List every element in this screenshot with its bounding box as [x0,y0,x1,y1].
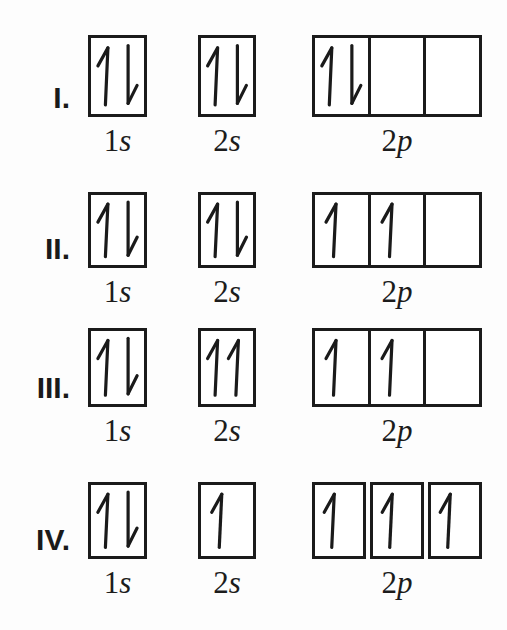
electron-arrows-canvas [315,195,368,265]
orbital-cell [201,331,253,404]
spin-down-arrow-icon [237,202,246,255]
spin-up-arrow-icon [98,204,108,257]
electron-arrows-canvas [91,331,144,404]
spin-down-arrow-icon [128,492,137,546]
orbital-cell [201,38,253,114]
electron-arrows-canvas [201,38,253,114]
electron-arrows-canvas [91,38,144,114]
orbital-cell [91,38,144,114]
spin-up-arrow-icon [212,494,222,547]
orbital-cell [368,331,424,404]
electron-arrows-canvas [431,485,479,556]
orbital-box-2s [198,192,256,268]
spin-up-arrow-icon [208,204,218,257]
orbital-label-1s: 1s [63,123,173,159]
orbital-label-number: 2 [382,565,398,600]
electron-arrows-canvas [315,331,368,404]
config-row-II: II.1s2s2p [0,192,507,320]
orbital-label-2p: 2p [342,274,452,310]
spin-down-arrow-icon [128,338,137,393]
orbital-label-2p: 2p [342,565,452,601]
row-numeral: I. [0,80,70,116]
orbital-box-2s [198,328,256,407]
spin-up-arrow-icon [440,494,450,547]
orbital-box-2p [312,328,482,407]
orbital-label-2p: 2p [342,413,452,449]
orbital-label-letter: p [397,565,413,600]
orbital-label-1s: 1s [63,413,173,449]
orbital-label-number: 2 [382,413,398,448]
orbital-label-2s: 2s [172,123,282,159]
orbital-box-1s [88,482,147,559]
orbital-label-letter: s [119,123,131,158]
orbital-cell [315,195,368,265]
orbital-label-number: 2 [213,274,229,309]
spin-down-arrow-icon [128,202,137,255]
orbital-label-letter: p [397,413,413,448]
orbital-label-number: 2 [382,274,398,309]
orbital-cell [315,331,368,404]
orbital-box-1s [88,192,147,268]
orbital-label-letter: s [229,413,241,448]
orbital-cell [91,485,144,556]
config-row-III: III.1s2s2p [0,328,507,459]
row-numeral: II. [0,231,70,267]
orbital-label-number: 1 [104,274,120,309]
spin-up-arrow-icon [382,494,392,547]
orbital-cell [91,331,144,404]
orbital-label-2p: 2p [342,123,452,159]
orbital-label-letter: s [119,274,131,309]
spin-down-arrow-icon [128,46,137,104]
spin-up-arrow-icon [382,340,392,395]
orbital-label-number: 1 [104,565,120,600]
spin-up-arrow-icon [382,204,392,257]
orbital-label-letter: s [119,565,131,600]
spin-up-arrow-icon [228,340,238,395]
orbital-label-number: 1 [104,123,120,158]
orbital-label-letter: s [229,565,241,600]
electron-arrows-canvas [91,195,144,265]
orbital-cell [368,38,424,114]
orbital-filling-diagrams-figure: I.1s2s2pII.1s2s2pIII.1s2s2pIV.1s2s2p [0,0,507,630]
orbital-box-1s [88,35,147,117]
spin-up-arrow-icon [326,340,336,395]
electron-arrows-canvas [201,485,253,556]
orbital-label-2s: 2s [172,413,282,449]
orbital-cell [312,482,366,559]
orbital-label-2s: 2s [172,565,282,601]
spin-up-arrow-icon [326,204,336,257]
config-row-I: I.1s2s2p [0,35,507,169]
orbital-cell [423,38,479,114]
orbital-box-1s [88,328,147,407]
orbital-label-letter: p [397,274,413,309]
spin-up-arrow-icon [324,494,334,547]
spin-up-arrow-icon [98,494,108,547]
orbital-cell [423,331,479,404]
spin-up-arrow-icon [322,48,332,105]
orbital-label-number: 2 [213,123,229,158]
orbital-cell [91,195,144,265]
orbital-box-2p [312,192,482,268]
orbital-box-2s [198,35,256,117]
orbital-label-1s: 1s [63,274,173,310]
electron-arrows-canvas [315,485,363,556]
orbital-label-letter: p [397,123,413,158]
config-row-IV: IV.1s2s2p [0,482,507,611]
spin-up-arrow-icon [98,48,108,105]
electron-arrows-canvas [201,195,253,265]
orbital-label-letter: s [229,123,241,158]
electron-arrows-canvas [91,485,144,556]
spin-down-arrow-icon [237,46,246,104]
electron-arrows-canvas [315,38,368,114]
orbital-cell [423,195,479,265]
spin-down-arrow-icon [352,46,361,104]
orbital-label-number: 2 [213,413,229,448]
orbital-box-2s [198,482,256,559]
spin-up-arrow-icon [208,340,218,395]
row-numeral: IV. [0,522,70,558]
electron-arrows-canvas [371,195,424,265]
orbital-box-2p [312,482,482,559]
orbital-label-letter: s [119,413,131,448]
orbital-label-number: 1 [104,413,120,448]
orbital-label-number: 2 [213,565,229,600]
